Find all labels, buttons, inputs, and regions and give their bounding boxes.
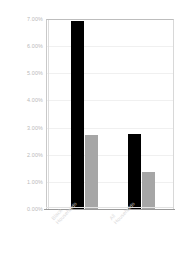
bar (85, 135, 98, 209)
bar (71, 21, 84, 209)
x-axis-category-labels: BlackHouseholdsAllHouseholds (0, 209, 178, 265)
bar (142, 172, 155, 209)
bar-chart: 7.00%6.00%5.00%4.00%3.00%2.00%1.00%0.00%… (0, 0, 178, 265)
